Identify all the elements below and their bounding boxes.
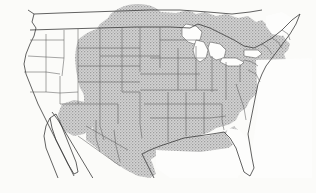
atlantic-ocean	[250, 58, 316, 182]
range-map-figure	[0, 0, 316, 193]
gulf-of-mexico	[156, 148, 244, 182]
north-america-map	[0, 0, 316, 193]
